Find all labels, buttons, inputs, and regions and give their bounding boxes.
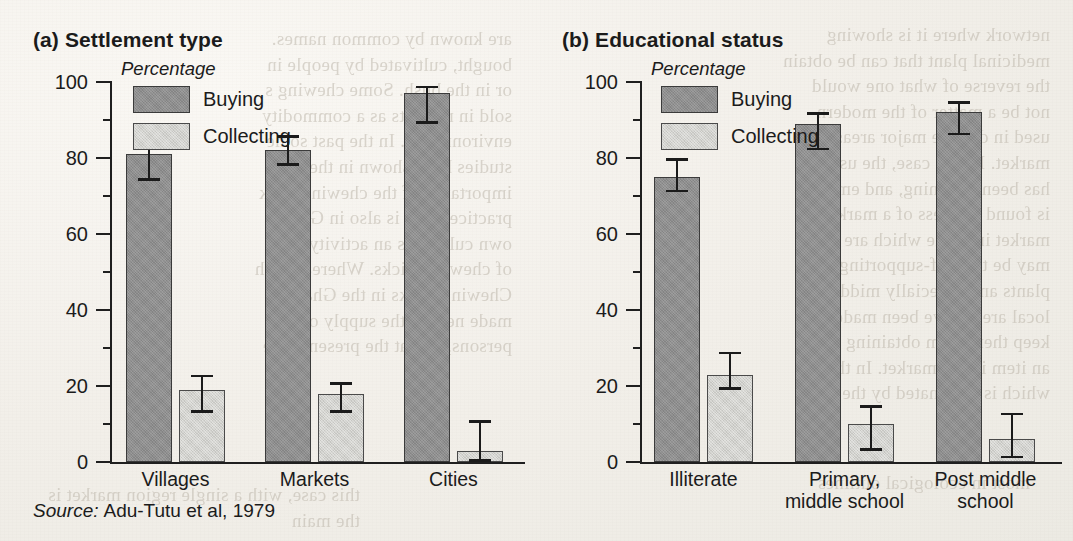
y-tick-minor-30 <box>103 347 112 349</box>
error-bar-stem <box>201 375 203 413</box>
y-tick-minor-70 <box>103 195 112 197</box>
source-value: Adu-Tutu et al, 1979 <box>103 500 274 521</box>
legend-swatch-buying-icon <box>133 86 190 113</box>
panel-a-x-axis-line <box>110 462 525 464</box>
y-tick-label-100: 100 <box>562 71 618 94</box>
error-bar-cap-bottom <box>330 410 352 413</box>
legend-entry-buying: Buying <box>661 84 819 114</box>
error-bar-cap-top <box>666 158 688 161</box>
legend-entry-collecting: Collecting <box>661 121 819 151</box>
y-tick-20 <box>626 385 642 387</box>
error-bar-stem <box>340 382 342 412</box>
y-tick-40 <box>626 309 642 311</box>
panel-a-legend: Buying Collecting <box>133 84 291 158</box>
y-tick-80 <box>626 157 642 159</box>
y-tick-minor-90 <box>103 119 112 121</box>
legend-label-collecting: Collecting <box>203 125 291 148</box>
panel-b-legend: Buying Collecting <box>661 84 819 158</box>
error-bar-cap-bottom <box>948 133 970 136</box>
legend-swatch-collecting-icon <box>133 123 190 150</box>
panel-b-x-axis-line <box>640 462 1062 464</box>
error-bar-buying-0 <box>654 158 700 192</box>
error-bar-cap-top <box>330 382 352 385</box>
y-tick-label-20: 20 <box>32 375 88 398</box>
error-bar-stem <box>870 405 872 451</box>
y-tick-60 <box>96 233 112 235</box>
y-tick-label-60: 60 <box>562 223 618 246</box>
error-bar-cap-bottom <box>191 410 213 413</box>
bar-buying-1 <box>265 150 311 462</box>
error-bar-cap-bottom <box>719 387 741 390</box>
y-tick-label-0: 0 <box>562 451 618 474</box>
error-bar-stem <box>729 352 731 390</box>
legend-entry-collecting: Collecting <box>133 121 291 151</box>
y-tick-minor-70 <box>633 195 642 197</box>
bar-buying-0 <box>654 177 700 462</box>
error-bar-collecting-1 <box>318 382 364 412</box>
y-tick-minor-30 <box>633 347 642 349</box>
legend-swatch-buying-icon <box>661 86 718 113</box>
y-tick-20 <box>96 385 112 387</box>
y-tick-minor-50 <box>633 271 642 273</box>
y-tick-label-80: 80 <box>562 147 618 170</box>
y-tick-minor-10 <box>633 423 642 425</box>
error-bar-cap-bottom <box>138 178 160 181</box>
legend-label-buying: Buying <box>203 88 264 111</box>
bar-buying-0 <box>126 154 172 462</box>
y-tick-100 <box>626 81 642 83</box>
source-citation: Source:Adu-Tutu et al, 1979 <box>33 500 275 522</box>
error-bar-stem <box>676 158 678 192</box>
legend-entry-buying: Buying <box>133 84 291 114</box>
error-bar-collecting-1 <box>848 405 894 451</box>
source-label: Source: <box>33 500 98 521</box>
panel-a-plot-area: 020406080100VillagesMarketsCities <box>0 0 538 541</box>
panel-b-plot-area: 020406080100IlliteratePrimary, middle sc… <box>530 0 1073 541</box>
y-tick-60 <box>626 233 642 235</box>
y-tick-label-40: 40 <box>32 299 88 322</box>
chart-panel-educational-status: (b) Educational status Percentage 020406… <box>530 0 1073 541</box>
legend-label-buying: Buying <box>731 88 792 111</box>
y-tick-100 <box>96 81 112 83</box>
error-bar-collecting-0 <box>707 352 753 390</box>
error-bar-stem <box>426 86 428 124</box>
error-bar-collecting-2 <box>457 420 503 462</box>
y-tick-label-60: 60 <box>32 223 88 246</box>
error-bar-cap-bottom <box>416 121 438 124</box>
error-bar-cap-top <box>948 101 970 104</box>
error-bar-cap-bottom <box>666 190 688 193</box>
error-bar-cap-bottom <box>277 163 299 166</box>
error-bar-buying-2 <box>936 101 982 135</box>
y-tick-label-40: 40 <box>562 299 618 322</box>
y-tick-minor-50 <box>103 271 112 273</box>
error-bar-cap-top <box>860 405 882 408</box>
y-tick-label-100: 100 <box>32 71 88 94</box>
bar-buying-2 <box>936 112 982 462</box>
y-tick-minor-10 <box>103 423 112 425</box>
y-tick-label-0: 0 <box>32 451 88 474</box>
error-bar-cap-bottom <box>469 459 491 462</box>
x-category-label-2: Cities <box>370 468 537 490</box>
error-bar-collecting-2 <box>989 413 1035 459</box>
bar-buying-1 <box>795 124 841 462</box>
error-bar-stem <box>479 420 481 462</box>
y-tick-label-20: 20 <box>562 375 618 398</box>
error-bar-cap-top <box>191 375 213 378</box>
bar-buying-2 <box>404 93 450 462</box>
error-bar-stem <box>958 101 960 135</box>
y-tick-80 <box>96 157 112 159</box>
error-bar-cap-top <box>416 86 438 89</box>
chart-panel-settlement-type: (a) Settlement type Percentage 020406080… <box>0 0 538 541</box>
y-tick-40 <box>96 309 112 311</box>
error-bar-stem <box>1011 413 1013 459</box>
legend-label-collecting: Collecting <box>731 125 819 148</box>
legend-swatch-collecting-icon <box>661 123 718 150</box>
error-bar-cap-top <box>469 420 491 423</box>
error-bar-cap-top <box>1001 413 1023 416</box>
x-category-label-2: Post middle school <box>902 468 1069 512</box>
y-tick-0 <box>626 461 642 463</box>
y-tick-label-80: 80 <box>32 147 88 170</box>
error-bar-cap-bottom <box>860 448 882 451</box>
error-bar-collecting-0 <box>179 375 225 413</box>
y-tick-0 <box>96 461 112 463</box>
y-tick-minor-90 <box>633 119 642 121</box>
